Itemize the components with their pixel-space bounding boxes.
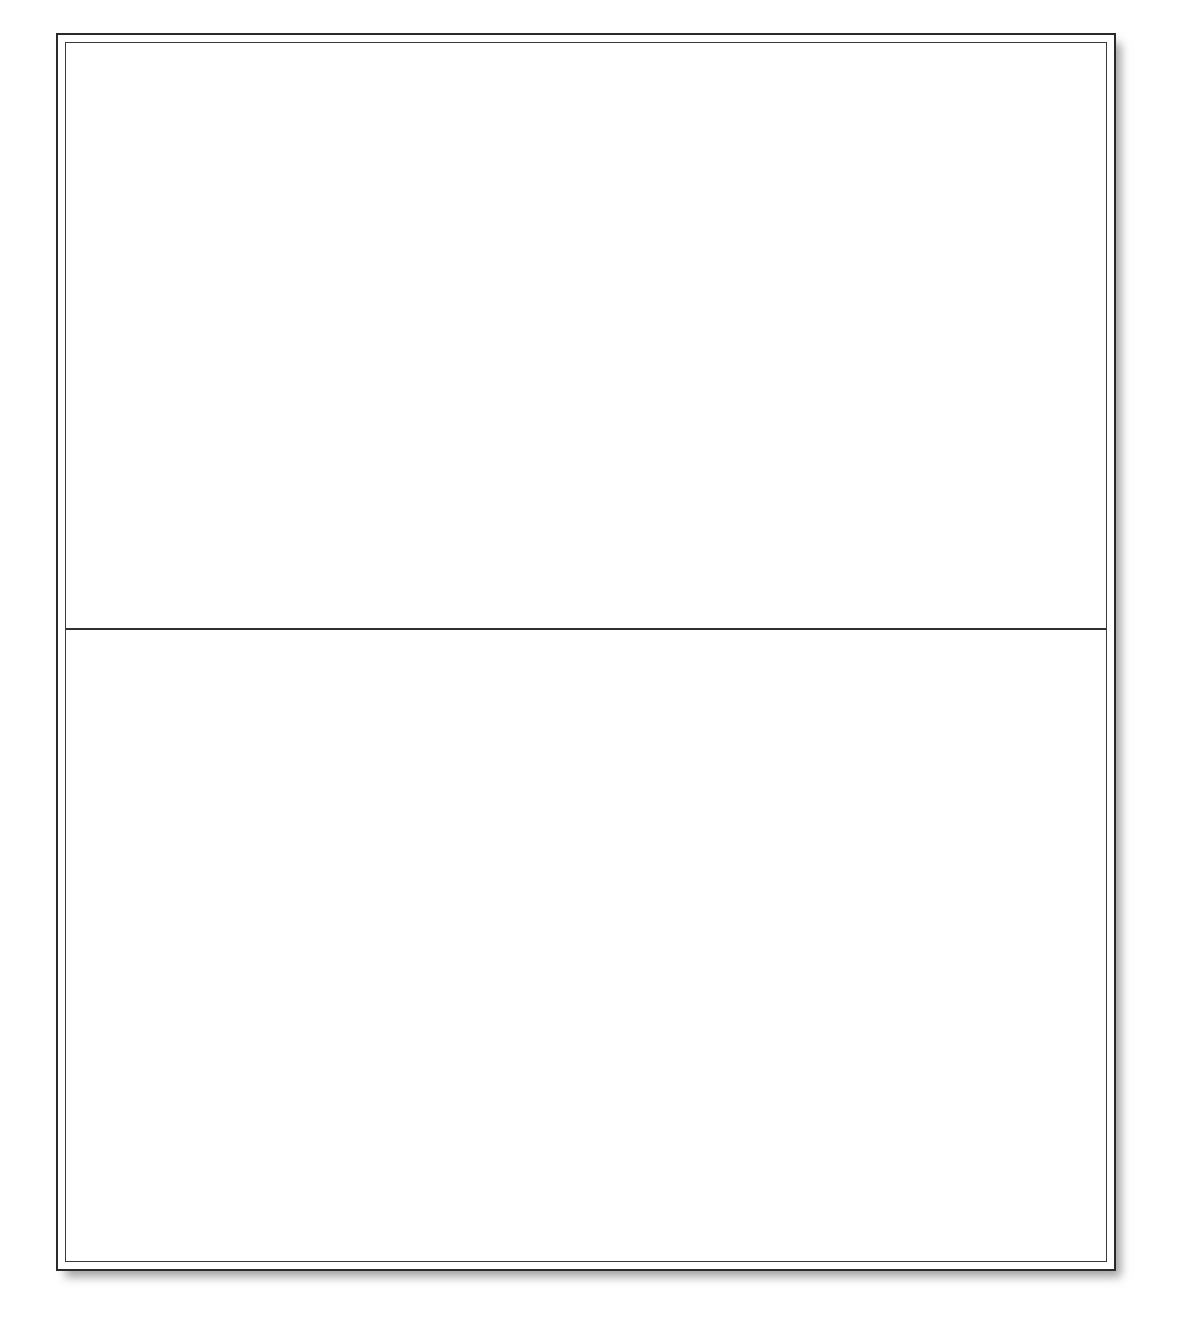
bottom-chart [70,633,1102,1263]
panel-divider [66,628,1106,630]
top-chart [70,47,1102,625]
bottom-chart-canvas [70,633,1102,1263]
scanned-page [56,33,1116,1271]
top-chart-canvas [70,47,1102,625]
